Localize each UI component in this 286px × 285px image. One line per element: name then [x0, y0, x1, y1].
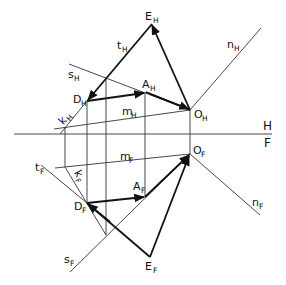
svg-text:H: H	[131, 111, 137, 120]
svg-text:F: F	[153, 266, 157, 275]
line-n-h	[190, 28, 261, 110]
axis-label-f: F	[264, 136, 271, 150]
label-m-h: mH	[122, 105, 137, 120]
label-k-h: kH	[56, 109, 76, 128]
svg-text:F: F	[129, 156, 133, 165]
svg-text:F: F	[82, 206, 86, 215]
vector-d-a-f	[87, 197, 144, 203]
svg-text:H: H	[153, 16, 159, 25]
label-d-f: DF	[74, 200, 86, 215]
svg-text:H: H	[122, 45, 128, 54]
label-d-h: DH	[73, 93, 87, 108]
label-n-h: nH	[227, 38, 240, 53]
svg-text:H: H	[81, 99, 87, 108]
svg-text:n: n	[227, 38, 234, 51]
vector-d-a-h	[87, 93, 144, 101]
projection-diagram: EH tH nH sH AH DH mH kH OH H F OF mF tF …	[0, 0, 286, 285]
svg-text:E: E	[145, 10, 152, 23]
line-n-f	[190, 154, 260, 215]
svg-text:H: H	[234, 44, 240, 53]
label-n-f: nF	[252, 196, 263, 211]
label-a-h: AH	[142, 78, 156, 93]
vector-a-o-f	[145, 155, 189, 197]
label-a-f: AF	[133, 180, 145, 195]
svg-text:F: F	[40, 167, 44, 176]
svg-text:H: H	[150, 84, 156, 93]
svg-text:F: F	[259, 202, 263, 211]
vector-to-d-f	[88, 204, 110, 222]
vector-e-o-f	[150, 156, 189, 257]
label-e-f: EF	[145, 260, 157, 275]
label-t-f: tF	[35, 161, 44, 176]
label-o-f: OF	[193, 144, 205, 159]
label-k-f: kF	[69, 168, 88, 185]
svg-text:F: F	[70, 259, 74, 268]
svg-text:H: H	[202, 114, 208, 123]
label-s-h: sH	[68, 68, 80, 83]
svg-text:E: E	[145, 260, 152, 273]
label-s-f: sF	[64, 253, 74, 268]
svg-text:H: H	[74, 74, 80, 83]
svg-text:A: A	[142, 78, 150, 91]
svg-text:F: F	[201, 150, 205, 159]
svg-text:F: F	[141, 186, 145, 195]
label-e-h: EH	[145, 10, 159, 25]
label-t-h: tH	[117, 39, 128, 54]
label-o-h: OH	[194, 108, 208, 123]
axis-label-h: H	[263, 119, 272, 133]
svg-text:n: n	[252, 196, 259, 209]
svg-text:A: A	[133, 180, 141, 193]
label-m-f: mF	[120, 150, 133, 165]
